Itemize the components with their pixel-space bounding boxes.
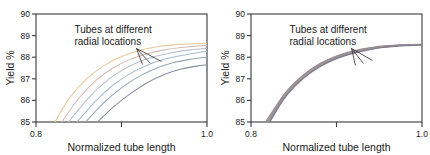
annotation-line-1: Tubes at different [289,24,366,35]
annotation-line-2: radial locations [289,36,356,47]
y-tick-label: 89 [236,31,246,41]
x-axis-title: Normalized tube length [68,141,176,153]
curve-tube-6 [270,45,422,122]
curve-tube-2 [62,45,207,122]
y-tick-label: 88 [236,52,246,62]
curve-group [266,44,422,122]
right-plot-svg: 8586878889900.81.0Normalized tube length… [215,0,430,155]
curve-group [55,43,207,122]
two-panel-chart-figure: 8586878889900.81.0Normalized tube length… [0,0,430,155]
x-axis-title: Normalized tube length [283,141,391,153]
right-panel: 8586878889900.81.0Normalized tube length… [215,0,430,155]
y-axis-title: Yield % [4,50,16,85]
y-tick-label: 86 [21,95,31,105]
curve-tube-3 [68,48,207,122]
left-plot-svg: 8586878889900.81.0Normalized tube length… [0,0,215,155]
annotation-line-1: Tubes at different [74,24,151,35]
left-panel: 8586878889900.81.0Normalized tube length… [0,0,215,155]
y-tick-label: 87 [21,74,31,84]
annotation-line-2: radial locations [74,36,141,47]
x-tick-label: 1.0 [416,129,428,139]
y-tick-label: 90 [236,9,246,19]
y-tick-label: 90 [21,9,31,19]
y-tick-label: 85 [21,117,31,127]
right-plot-group: 8586878889900.81.0Normalized tube length… [219,9,428,153]
x-tick-label: 1.0 [201,129,213,139]
curve-tube-5 [269,45,422,122]
y-tick-label: 85 [236,117,246,127]
y-tick-label: 86 [236,95,246,105]
x-tick-label: 0.8 [245,129,257,139]
curve-tube-5 [86,57,207,122]
y-tick-label: 89 [21,31,31,41]
x-tick-label: 0.8 [30,129,42,139]
curve-tube-4 [77,51,207,122]
y-axis-title: Yield % [219,50,231,85]
y-tick-label: 87 [236,74,246,84]
y-tick-label: 88 [21,52,31,62]
left-plot-group: 8586878889900.81.0Normalized tube length… [4,9,213,153]
